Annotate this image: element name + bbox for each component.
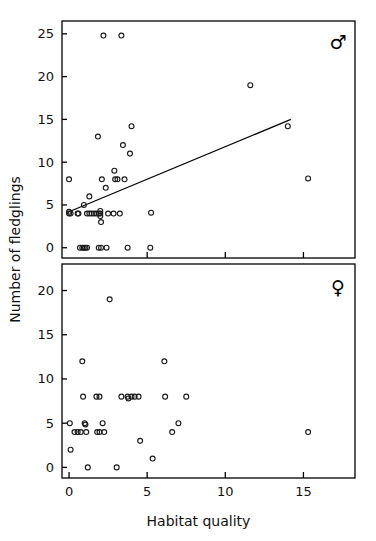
female-panel-frame (62, 264, 355, 478)
y-tick-label-male-25: 25 (37, 26, 54, 41)
data-point-male (106, 211, 111, 216)
figure-container: 051015202505101520051015♂♀Habitat qualit… (0, 0, 376, 541)
data-point-female (176, 421, 181, 426)
y-tick-label-female-5: 5 (46, 416, 54, 431)
data-point-male (125, 245, 130, 250)
data-point-female (162, 359, 167, 364)
y-tick-label-male-10: 10 (37, 155, 54, 170)
female-symbol: ♀ (331, 276, 345, 298)
scatter-figure: 051015202505101520051015♂♀Habitat qualit… (0, 0, 376, 541)
data-point-male (103, 185, 108, 190)
data-point-female (80, 359, 85, 364)
x-tick-label-10: 10 (217, 484, 234, 499)
data-point-female (100, 421, 105, 426)
data-point-female (119, 394, 124, 399)
data-point-male (104, 245, 109, 250)
data-point-male (122, 177, 127, 182)
regression-line-male (69, 119, 291, 211)
data-point-male (148, 245, 153, 250)
data-point-female (78, 430, 83, 435)
data-point-male (248, 83, 253, 88)
data-point-male (306, 176, 311, 181)
y-tick-label-female-15: 15 (37, 327, 54, 342)
data-point-male (117, 211, 122, 216)
data-point-female (163, 394, 168, 399)
y-tick-label-male-20: 20 (37, 69, 54, 84)
y-tick-label-male-15: 15 (37, 112, 54, 127)
data-point-female (150, 456, 155, 461)
x-tick-label-0: 0 (65, 484, 73, 499)
x-axis-title: Habitat quality (147, 513, 251, 529)
data-point-male (128, 151, 133, 156)
data-point-male (95, 134, 100, 139)
data-point-female (68, 447, 73, 452)
y-tick-label-female-0: 0 (46, 460, 54, 475)
data-point-male (99, 220, 104, 225)
data-point-female (107, 297, 112, 302)
data-point-male (67, 177, 72, 182)
data-point-female (81, 394, 86, 399)
data-point-male (101, 33, 106, 38)
data-point-male (119, 33, 124, 38)
data-point-female (67, 421, 72, 426)
data-point-male (99, 177, 104, 182)
y-tick-label-male-0: 0 (46, 240, 54, 255)
y-tick-label-female-10: 10 (37, 371, 54, 386)
data-point-male (120, 143, 125, 148)
data-point-male (111, 211, 116, 216)
data-point-female (138, 438, 143, 443)
data-point-female (85, 465, 90, 470)
data-point-male (129, 124, 134, 129)
data-point-male (87, 194, 92, 199)
y-tick-label-female-20: 20 (37, 283, 54, 298)
data-point-male (285, 124, 290, 129)
data-point-female (84, 430, 89, 435)
data-point-female (114, 465, 119, 470)
x-tick-label-15: 15 (295, 484, 312, 499)
male-panel-frame (62, 21, 355, 258)
data-point-male (112, 168, 117, 173)
data-point-female (184, 394, 189, 399)
data-point-female (97, 394, 102, 399)
y-axis-title: Number of fledglings (7, 176, 23, 323)
y-tick-label-male-5: 5 (46, 197, 54, 212)
data-point-male (149, 210, 154, 215)
x-tick-label-5: 5 (143, 484, 151, 499)
male-symbol: ♂ (329, 31, 346, 53)
data-point-female (170, 430, 175, 435)
data-point-female (306, 430, 311, 435)
